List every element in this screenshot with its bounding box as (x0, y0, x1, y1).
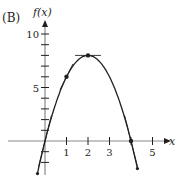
panel-label: (B) (2, 11, 20, 25)
function-graph: (B) 1235510 f(x) x (0, 0, 184, 178)
svg-text:1: 1 (63, 147, 69, 158)
y-axis-label: f(x) (32, 6, 52, 19)
svg-text:2: 2 (85, 147, 91, 158)
svg-text:5: 5 (149, 147, 155, 158)
svg-text:5: 5 (33, 83, 39, 94)
x-axis-label: x (169, 135, 176, 148)
axis-ticks: 1235510 (26, 29, 155, 162)
svg-text:3: 3 (106, 147, 112, 158)
svg-text:10: 10 (26, 29, 39, 40)
